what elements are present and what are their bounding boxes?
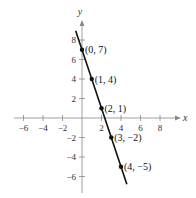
coordinate-plane: xy−6−4−22468−6−4−22468(0, 7)(1, 4)(2, 1)… xyxy=(0,0,196,198)
y-tick-label: 6 xyxy=(72,55,77,65)
x-tick-label: −4 xyxy=(38,123,48,133)
x-tick-label: −2 xyxy=(58,123,68,133)
y-axis-arrow-icon xyxy=(80,20,85,26)
y-tick-label: −2 xyxy=(66,133,76,143)
point-label: (3, −2) xyxy=(114,132,141,144)
point-label: (4, −5) xyxy=(124,161,151,173)
point-label: (0, 7) xyxy=(85,44,107,56)
x-tick-label: 8 xyxy=(158,123,163,133)
x-tick-label: −6 xyxy=(19,123,29,133)
x-axis-arrow-icon xyxy=(175,116,181,121)
point-label: (1, 4) xyxy=(95,74,117,86)
data-point xyxy=(99,106,103,110)
y-tick-label: 4 xyxy=(72,74,77,84)
data-point xyxy=(80,48,84,52)
y-tick-label: −6 xyxy=(66,172,76,182)
data-point xyxy=(109,135,113,139)
y-tick-label: −4 xyxy=(66,152,76,162)
x-tick-label: 2 xyxy=(99,123,104,133)
y-tick-label: 2 xyxy=(72,94,77,104)
y-axis-label: y xyxy=(77,6,83,17)
x-axis-label: x xyxy=(182,112,188,123)
data-point xyxy=(119,165,123,169)
y-tick-label: 8 xyxy=(72,35,77,45)
point-label: (2, 1) xyxy=(105,103,127,115)
data-point xyxy=(90,77,94,81)
